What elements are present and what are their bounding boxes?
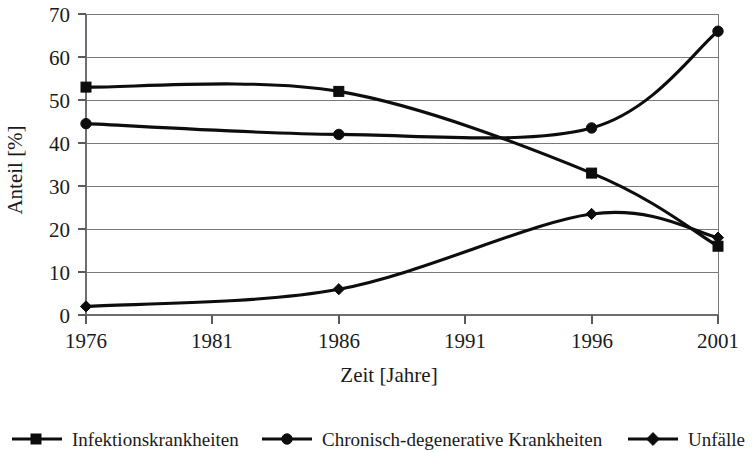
x-tick-label: 1996 [571,329,613,353]
square-marker-icon [31,434,41,444]
y-tick-label: 70 [49,3,70,27]
circle-marker-icon [282,434,292,444]
x-tick-labels: 1976 1981 1986 1991 1996 2001 [65,329,739,353]
circle-marker-icon [334,129,344,139]
x-tick-label: 1981 [191,329,233,353]
series-line [86,84,718,246]
x-axis-title: Zeit [Jahre] [340,363,437,387]
legend-label: Chronisch-degenerative Krankheiten [322,429,603,450]
legend-item-infektionskrankheiten[interactable]: Infektionskrankheiten [12,429,239,450]
diamond-marker-icon [80,301,91,312]
y-tick-marks [78,14,86,315]
x-tick-label: 1986 [318,329,360,353]
y-tick-label: 30 [49,175,70,199]
series-2 [81,26,723,140]
legend-item-unfaelle[interactable]: Unfälle [628,429,745,450]
legend-label: Infektionskrankheiten [72,429,239,450]
y-tick-label: 40 [49,132,70,156]
circle-marker-icon [586,123,596,133]
x-tick-label: 1976 [65,329,107,353]
gridlines [86,14,718,315]
diamond-marker-icon [333,284,344,295]
square-marker-icon [587,168,597,178]
x-tick-label: 1991 [444,329,486,353]
series-layer [80,26,723,312]
y-axis-title: Anteil [%] [3,125,27,214]
diamond-marker-icon [586,208,597,219]
series-1 [81,82,723,251]
legend-item-chronisch-degenerative-krankheiten[interactable]: Chronisch-degenerative Krankheiten [262,429,603,450]
y-tick-label: 20 [49,218,70,242]
y-tick-label: 0 [60,304,71,328]
x-tick-label: 2001 [697,329,739,353]
circle-marker-icon [713,26,723,36]
chart-figure: 70 60 50 40 30 20 10 0 1976 1981 1986 19… [0,0,753,452]
diamond-marker-icon [647,433,660,446]
circle-marker-icon [81,118,91,128]
line-chart: 70 60 50 40 30 20 10 0 1976 1981 1986 19… [0,0,753,452]
y-tick-label: 60 [49,46,70,70]
chart-legend: Infektionskrankheiten Chronisch-degenera… [12,429,745,450]
series-line [86,212,718,306]
x-tick-marks [86,315,718,324]
y-tick-label: 50 [49,89,70,113]
square-marker-icon [81,82,91,92]
square-marker-icon [334,86,344,96]
y-tick-label: 10 [49,261,70,285]
y-tick-labels: 70 60 50 40 30 20 10 0 [49,3,70,328]
legend-label: Unfälle [688,429,745,450]
series-3 [80,208,723,312]
